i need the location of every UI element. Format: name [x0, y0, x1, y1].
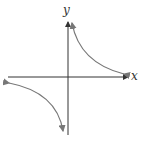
- hyperbola-plot: [0, 0, 146, 142]
- curve-upper-right: [72, 23, 124, 74]
- x-axis-label: x: [131, 69, 138, 83]
- curve-lower-left: [9, 83, 63, 131]
- y-axis-label: y: [63, 3, 70, 17]
